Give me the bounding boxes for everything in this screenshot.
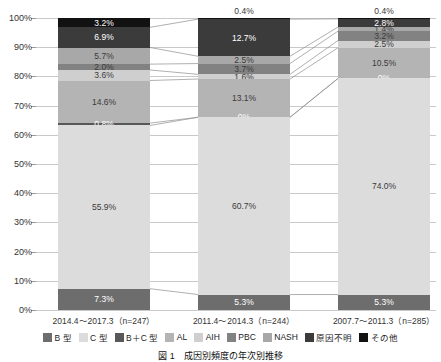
segment-value-label: 60.7% [198, 202, 290, 211]
segment-value-label: 13.1% [198, 94, 290, 103]
legend-label: AL [177, 332, 187, 342]
legend-item[interactable]: PBC [227, 332, 256, 342]
legend-item[interactable]: B＋C 型 [115, 331, 159, 343]
y-axis-tick-label: 50% [0, 160, 32, 169]
bar-segment: 14.6% [58, 81, 150, 124]
legend-swatch-icon [194, 333, 203, 342]
segment-value-label: 0.4% [198, 7, 290, 16]
bar-column: 0.4%12.7%2.5%3.7%1.6%13.1%0%60.7%5.3% [198, 18, 290, 310]
segment-value-label: 5.3% [198, 298, 290, 307]
y-axis-tick-label: 20% [0, 248, 32, 257]
legend-label: C 型 [90, 331, 108, 343]
bar-segment: 5.3% [198, 295, 290, 310]
chart-legend: B 型C 型B＋C 型ALAIHPBCNASH原因不明その他 [0, 331, 441, 343]
y-axis-tick-label: 30% [0, 218, 32, 227]
legend-swatch-icon [115, 333, 124, 342]
y-axis-tick-label: 40% [0, 189, 32, 198]
legend-item[interactable]: AL [165, 332, 187, 342]
legend-label: その他 [371, 331, 398, 343]
bar-segment: 3.6% [58, 70, 150, 81]
segment-value-label: 10.5% [338, 59, 430, 68]
bar-column: 3.2%6.9%5.7%2.0%3.6%14.6%0.8%55.9%7.3% [58, 18, 150, 310]
legend-swatch-icon [79, 333, 88, 342]
bar-segment: 6.9% [58, 27, 150, 47]
legend-item[interactable]: C 型 [79, 331, 108, 343]
legend-swatch-icon [43, 333, 52, 342]
legend-swatch-icon [359, 333, 368, 342]
bar-segment: 12.7% [198, 19, 290, 56]
bar-column: 0.4%2.8%1.4%3.2%2.5%10.5%0%74.0%5.3% [338, 18, 430, 310]
y-axis-tick-label: 70% [0, 102, 32, 111]
legend-item[interactable]: NASH [263, 332, 298, 342]
bar-segment: 60.7% [198, 117, 290, 294]
segment-value-label: 12.7% [198, 33, 290, 42]
gridline [36, 310, 436, 311]
x-axis-label-period-1: 2014.4～2017.3（n=247） [29, 314, 179, 326]
legend-swatch-icon [263, 333, 272, 342]
legend-swatch-icon [305, 333, 314, 342]
y-axis-tick-label: 80% [0, 72, 32, 81]
legend-swatch-icon [165, 333, 174, 342]
segment-value-label: 14.6% [58, 98, 150, 107]
legend-label: B 型 [55, 331, 72, 343]
legend-swatch-icon [227, 333, 236, 342]
segment-value-label: 5.7% [58, 52, 150, 61]
y-axis-tick-label: 100% [0, 14, 32, 23]
segment-value-label: 3.6% [58, 71, 150, 80]
segment-value-label: 6.9% [58, 33, 150, 42]
bar-segment: 55.9% [58, 125, 150, 288]
x-axis-label-period-3: 2007.7～2011.3（n=285） [309, 314, 441, 326]
plot-area: 100%90%80%70%60%50%40%30%20%10%0%3.2%6.9… [36, 18, 436, 310]
y-axis-tick-label: 90% [0, 43, 32, 52]
segment-value-label: 55.9% [58, 203, 150, 212]
bar-segment: 5.3% [338, 295, 430, 310]
legend-item[interactable]: AIH [194, 332, 220, 342]
legend-label: B＋C 型 [126, 331, 158, 343]
bar-segment: 2.5% [198, 56, 290, 63]
x-axis-label-period-2: 2011.4～2014.3（n=244） [169, 314, 319, 326]
segment-value-label: 7.3% [58, 295, 150, 304]
bar-segment: 74.0% [338, 78, 430, 294]
legend-item[interactable]: その他 [359, 331, 398, 343]
y-axis-tick-label: 60% [0, 131, 32, 140]
legend-label: NASH [274, 332, 298, 342]
segment-value-label: 3.2% [58, 18, 150, 27]
legend-label: 原因不明 [316, 331, 352, 343]
segment-value-label: 0.4% [338, 7, 430, 16]
y-axis-tick-label: 10% [0, 277, 32, 286]
segment-value-label: 74.0% [338, 182, 430, 191]
bar-segment: 7.3% [58, 289, 150, 310]
legend-item[interactable]: 原因不明 [305, 331, 353, 343]
legend-label: AIH [206, 332, 220, 342]
figure-caption: 図 1 成因別頻度の年次別推移 [0, 349, 441, 362]
legend-label: PBC [238, 332, 255, 342]
legend-item[interactable]: B 型 [43, 331, 72, 343]
bar-segment: 2.5% [338, 41, 430, 48]
bar-segment: 3.2% [58, 18, 150, 27]
segment-value-label: 5.3% [338, 298, 430, 307]
y-axis-tick-label: 0% [0, 306, 32, 315]
